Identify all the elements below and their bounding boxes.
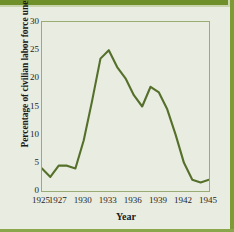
- x-tick-label: 1930: [74, 195, 92, 205]
- y-tick-label: 15: [3, 101, 39, 111]
- x-tick-label: 1927: [49, 195, 67, 205]
- x-axis-label: Year: [41, 211, 211, 222]
- x-tick-label: 1936: [124, 195, 142, 205]
- y-tick-label: 20: [3, 72, 39, 82]
- chart-figure: Percentage of civilian labor force unemp…: [0, 0, 234, 232]
- y-tick-label: 5: [3, 157, 39, 167]
- y-tick-label: 10: [3, 129, 39, 139]
- x-axis-ticks: 19251927193019331936193919421945: [0, 195, 234, 209]
- plot-area: [41, 21, 210, 192]
- x-tick-label: 1939: [149, 195, 167, 205]
- x-tick-label: 1945: [199, 195, 217, 205]
- x-tick-label: 1942: [174, 195, 192, 205]
- y-tick-label: 25: [3, 44, 39, 54]
- x-tick-label: 1925: [32, 195, 50, 205]
- x-tick-label: 1933: [99, 195, 117, 205]
- unemployment-line-series: [42, 22, 209, 191]
- y-tick-label: 0: [3, 185, 39, 195]
- y-tick-label: 30: [3, 16, 39, 26]
